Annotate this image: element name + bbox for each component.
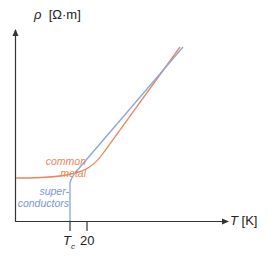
tick-tc-symbol: T <box>63 233 71 248</box>
tick-tc-subscript: c <box>71 242 75 251</box>
x-axis-unit: [K] <box>242 213 258 228</box>
sc-label-line2: conductors <box>14 197 69 209</box>
y-axis-unit: [Ω·m] <box>49 7 81 22</box>
y-axis-label: ρ [Ω·m] <box>34 8 81 21</box>
superconductor-curve <box>70 47 183 221</box>
metal-label-line2: metal <box>20 167 86 179</box>
sc-label-line1: super- <box>14 185 69 197</box>
tick-label-20: 20 <box>80 234 94 247</box>
metal-label-line1: common <box>20 155 86 167</box>
metal-series-label: common metal <box>20 155 86 179</box>
tick-label-tc: Tc <box>63 234 75 251</box>
x-axis-label: T [K] <box>230 214 257 227</box>
x-axis-symbol: T <box>230 213 238 228</box>
superconductor-series-label: super- conductors <box>14 185 69 209</box>
y-axis-symbol: ρ <box>34 7 41 22</box>
